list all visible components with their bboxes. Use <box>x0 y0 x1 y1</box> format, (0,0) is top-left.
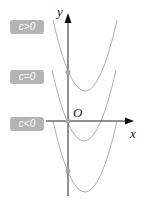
label-c-negative: c<0 <box>10 117 44 131</box>
label-c-positive: c>0 <box>10 20 44 34</box>
x-axis-label: x <box>130 126 136 142</box>
intercept-point-c-negative <box>66 169 71 174</box>
label-c-zero: c=0 <box>10 70 44 84</box>
parabola-c-zero <box>52 70 116 141</box>
x-axis-arrow-icon <box>125 118 134 125</box>
origin-label: O <box>73 105 82 121</box>
parabola-c-positive <box>53 20 117 91</box>
intercept-point-origin <box>66 119 71 124</box>
parabola-c-negative <box>53 121 117 192</box>
y-axis-label: y <box>57 4 63 20</box>
y-axis-arrow-icon <box>65 13 72 23</box>
intercept-point-c-positive <box>66 70 71 75</box>
